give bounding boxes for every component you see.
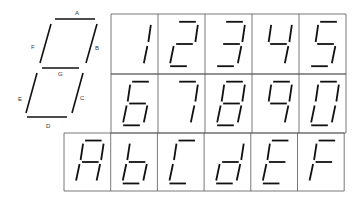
character-cell-3 [217,22,245,66]
segment-c [143,164,147,180]
segment-e [123,106,127,123]
seven-segment-diagram: A B C D E F G [0,0,364,204]
segment-b [289,25,292,42]
segment-e [310,164,314,180]
segment-c [144,106,148,123]
character-cell-4 [269,25,292,63]
character-cell-5 [311,22,337,66]
segment-c [72,73,83,113]
character-cell-C [169,141,195,184]
segment-e [216,164,220,180]
segment-c [97,164,101,180]
segment-f [316,25,319,42]
segment-c [238,106,242,123]
label-b: B [95,45,99,51]
segment-b [148,25,151,42]
segment-e [76,164,80,180]
segment-b [336,85,339,102]
segment-f [127,144,130,160]
character-cell-6 [123,82,149,126]
segment-f [40,24,51,63]
label-e: E [18,96,22,102]
label-d: D [46,123,51,129]
segment-e [170,46,174,63]
segment-e [169,164,173,180]
segment-f [267,144,270,160]
segment-c [285,46,289,63]
segment-e [123,164,127,180]
character-cells [76,22,339,184]
segment-b [241,144,244,160]
segment-labels: A B C D E F G [18,10,99,129]
segment-e [311,106,315,123]
character-cell-E [263,141,289,184]
segment-c [191,106,195,123]
segment-f [314,144,317,160]
character-cell-d [216,144,244,184]
character-cell-1 [144,25,151,63]
character-cell-2 [170,22,198,66]
segment-c [332,106,336,123]
segment-b [195,85,198,102]
segment-e [217,106,221,123]
segment-b [195,25,198,42]
segment-c [144,46,148,63]
segment-e [26,73,37,113]
segment-f [128,85,131,102]
character-grid [64,14,346,191]
reference-segment-diagram [26,19,97,117]
character-cell-9 [269,82,292,123]
segment-f [269,25,272,42]
segment-e [263,164,267,180]
character-cell-7 [179,82,198,123]
segment-b [242,25,245,42]
segment-b [101,144,104,160]
label-c: C [80,95,85,101]
label-f: F [31,44,35,50]
segment-f [316,85,319,102]
character-cell-F [310,141,336,181]
segment-c [238,46,242,63]
character-cell-8 [217,82,245,126]
segment-b [289,85,292,102]
segment-f [81,144,84,160]
segment-b [86,24,97,63]
segment-c [285,106,289,123]
segment-c [237,164,241,180]
character-cell-0 [311,82,339,126]
segment-f [174,144,177,160]
segment-c [332,46,336,63]
label-a: A [75,10,79,16]
segment-b [242,85,245,102]
segment-f [222,85,225,102]
character-cell-b [123,144,147,184]
segment-f [269,85,272,102]
label-g: G [58,71,63,77]
character-cell-A [76,141,104,181]
